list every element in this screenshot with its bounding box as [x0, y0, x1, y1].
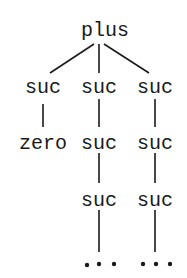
node-zero: zero — [19, 132, 67, 155]
term-tree-diagram: plus suc suc suc zero suc suc suc suc — [0, 0, 187, 278]
node-suc-4: suc — [81, 132, 117, 155]
node-plus: plus — [81, 19, 129, 42]
node-suc-1: suc — [25, 76, 61, 99]
node-suc-7: suc — [137, 189, 173, 212]
edge-plus-suc1 — [50, 44, 94, 73]
ellipsis-mid — [85, 262, 116, 267]
ellipsis-right — [141, 262, 172, 266]
node-suc-2: suc — [81, 76, 117, 99]
node-suc-5: suc — [137, 132, 173, 155]
node-suc-3: suc — [137, 76, 173, 99]
node-suc-6: suc — [81, 189, 117, 212]
edge-plus-suc3 — [104, 44, 149, 73]
